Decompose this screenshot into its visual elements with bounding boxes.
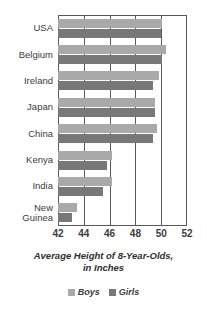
bar-girls-china [58, 134, 153, 143]
plot-area [58, 15, 187, 226]
x-tick-label-48: 48 [130, 228, 141, 239]
bar-boys-kenya [58, 151, 112, 160]
bar-boys-usa [58, 19, 162, 28]
x-tick-label-52: 52 [181, 228, 192, 239]
bar-boys-india [58, 177, 112, 186]
bar-boys-japan [58, 98, 155, 107]
x-tick-label-44: 44 [78, 228, 89, 239]
x-tick-label-50: 50 [156, 228, 167, 239]
chart-axis-title: Average Height of 8-Year-Olds, in Inches [6, 250, 201, 274]
chart-legend: BoysGirls [0, 287, 207, 297]
legend-label-boys: Boys [78, 287, 100, 297]
category-label-usa: USA [33, 23, 53, 33]
bar-girls-ireland [58, 81, 153, 90]
category-label-china: China [28, 129, 53, 139]
axis-title-line-1: Average Height of 8-Year-Olds, [6, 250, 201, 262]
bar-girls-new-guinea [58, 213, 72, 222]
category-label-ireland: Ireland [24, 76, 53, 86]
bar-chart: USABelgiumIrelandJapanChinaKenyaIndiaNew… [0, 0, 207, 311]
bars-layer [58, 15, 187, 226]
legend-label-girls: Girls [119, 287, 140, 297]
category-label-new-guinea: New Guinea [22, 203, 53, 223]
axis-title-line-2: in Inches [6, 262, 201, 274]
x-tick-label-46: 46 [104, 228, 115, 239]
legend-item-boys: Boys [68, 287, 100, 297]
legend-swatch-boys [68, 289, 75, 296]
category-label-india: India [32, 181, 53, 191]
legend-swatch-girls [109, 289, 116, 296]
bar-boys-ireland [58, 71, 159, 80]
category-label-belgium: Belgium [19, 50, 53, 60]
bar-boys-china [58, 124, 157, 133]
bar-girls-belgium [58, 55, 162, 64]
bar-girls-india [58, 187, 103, 196]
bar-girls-japan [58, 108, 155, 117]
bar-girls-kenya [58, 161, 107, 170]
category-label-kenya: Kenya [26, 155, 53, 165]
bar-boys-new-guinea [58, 203, 77, 212]
category-label-japan: Japan [27, 102, 53, 112]
bar-girls-usa [58, 29, 161, 38]
legend-item-girls: Girls [109, 287, 140, 297]
category-axis-labels: USABelgiumIrelandJapanChinaKenyaIndiaNew… [0, 15, 56, 226]
x-tick-label-42: 42 [52, 228, 63, 239]
x-axis-tick-labels: 424446485052 [58, 228, 187, 242]
bar-boys-belgium [58, 45, 166, 54]
